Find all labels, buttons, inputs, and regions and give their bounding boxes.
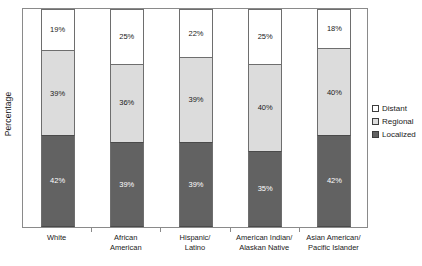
bar-segment-distant: 22% — [179, 9, 213, 57]
bar-segment-localized: 39% — [110, 142, 144, 227]
y-axis-title: Percentage — [0, 0, 16, 228]
legend-swatch-localized-icon — [372, 131, 379, 138]
bar-segment-value: 36% — [119, 99, 134, 107]
bar-segment-regional: 39% — [41, 50, 75, 135]
x-axis-tick — [91, 228, 92, 232]
bar-segment-value: 25% — [119, 33, 134, 41]
x-axis-label: Hispanic/ Latino — [160, 233, 229, 252]
bar-segment-value: 40% — [258, 104, 273, 112]
bar-segment-localized: 39% — [179, 142, 213, 227]
bar-segment-distant: 19% — [41, 9, 75, 50]
legend-item-distant[interactable]: Distant — [372, 102, 422, 114]
x-axis-label: White — [22, 233, 91, 243]
bar-segment-value: 19% — [50, 26, 65, 34]
legend-item-regional[interactable]: Regional — [372, 115, 422, 127]
chart-legend: Distant Regional Localized — [372, 102, 422, 141]
legend-item-localized[interactable]: Localized — [372, 128, 422, 140]
legend-swatch-regional-icon — [372, 118, 379, 125]
bar-segment-value: 39% — [50, 90, 65, 98]
bar-segment-distant: 25% — [110, 9, 144, 64]
bar-segment-value: 22% — [188, 30, 203, 38]
legend-label-localized: Localized — [382, 130, 416, 139]
legend-label-regional: Regional — [382, 117, 414, 126]
x-axis-label: African American — [91, 233, 160, 252]
bars-container: 19%39%42%25%36%39%22%39%39%25%40%35%18%4… — [23, 9, 367, 227]
bar-segment-value: 25% — [258, 33, 273, 41]
x-axis-label: Asian American/ Pacific Islander — [299, 233, 368, 252]
bar-segment-localized: 42% — [317, 135, 351, 227]
bar-segment-value: 39% — [119, 181, 134, 189]
bar-segment-regional: 40% — [317, 48, 351, 135]
bar-segment-value: 35% — [258, 185, 273, 193]
bar-segment-value: 39% — [188, 96, 203, 104]
y-axis-title-text: Percentage — [3, 92, 13, 136]
bar-segment-localized: 42% — [41, 135, 75, 227]
bar-segment-value: 40% — [327, 89, 342, 97]
stacked-bar-chart: Percentage 19%39%42%25%36%39%22%39%39%25… — [0, 0, 422, 266]
bar-segment-value: 18% — [327, 25, 342, 33]
x-axis-labels: WhiteAfrican AmericanHispanic/ LatinoAme… — [22, 233, 368, 259]
x-axis-label: American Indian/ Alaskan Native — [230, 233, 299, 252]
bar-segment-value: 39% — [188, 181, 203, 189]
bar-segment-regional: 39% — [179, 57, 213, 142]
plot-area: 19%39%42%25%36%39%22%39%39%25%40%35%18%4… — [22, 8, 368, 228]
stacked-bar: 18%40%42% — [317, 9, 351, 227]
bar-segment-regional: 40% — [248, 64, 282, 151]
bar-segment-distant: 18% — [317, 9, 351, 48]
legend-label-distant: Distant — [382, 104, 407, 113]
x-axis-tick — [299, 228, 300, 232]
stacked-bar: 25%36%39% — [110, 9, 144, 227]
stacked-bar: 22%39%39% — [179, 9, 213, 227]
x-axis-tick — [160, 228, 161, 232]
x-axis-tick — [230, 228, 231, 232]
bar-segment-value: 42% — [327, 177, 342, 185]
bar-segment-distant: 25% — [248, 9, 282, 64]
bar-segment-localized: 35% — [248, 151, 282, 227]
legend-swatch-distant-icon — [372, 105, 379, 112]
stacked-bar: 25%40%35% — [248, 9, 282, 227]
bar-segment-value: 42% — [50, 177, 65, 185]
stacked-bar: 19%39%42% — [41, 9, 75, 227]
bar-segment-regional: 36% — [110, 64, 144, 142]
